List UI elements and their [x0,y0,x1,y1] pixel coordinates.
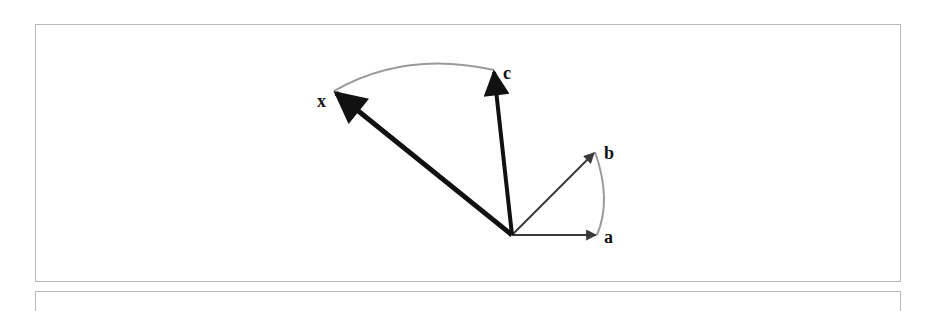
label-x: x [317,91,326,111]
vector-c [494,72,512,235]
arc-a-b [595,152,604,235]
label-c: c [503,63,511,83]
vector-b [512,153,594,235]
label-b: b [604,143,614,163]
arc-x-c [334,63,494,91]
vector-x [336,93,512,235]
label-a: a [604,227,613,247]
